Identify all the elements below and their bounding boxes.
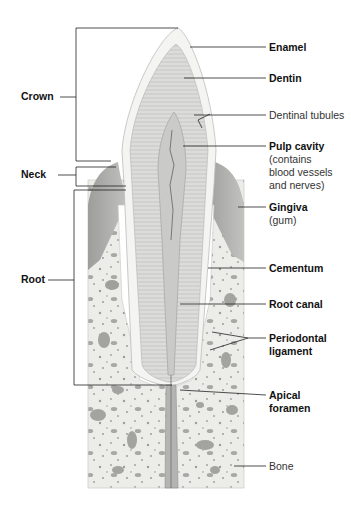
label-bone: Bone <box>269 460 294 473</box>
label-apical-title: Apical <box>269 389 301 401</box>
label-gingiva-sub: (gum) <box>269 214 308 227</box>
label-enamel: Enamel <box>269 41 306 54</box>
label-pulp-cavity-sub1: (contains <box>269 153 333 166</box>
label-periodontal-ligament: Periodontal ligament <box>269 332 327 358</box>
label-apical-foramen: Apical foramen <box>269 389 310 415</box>
label-periodontal-sub: ligament <box>269 345 327 358</box>
label-crown: Crown <box>21 90 54 103</box>
label-periodontal-title: Periodontal <box>269 332 327 344</box>
label-neck: Neck <box>21 168 46 181</box>
label-apical-sub: foramen <box>269 402 310 415</box>
label-root: Root <box>21 273 45 286</box>
tooth-diagram: Crown Neck Root Enamel Dentin Dentinal t… <box>0 0 351 512</box>
label-root-canal: Root canal <box>269 298 323 311</box>
label-pulp-cavity-sub3: and nerves) <box>269 179 333 192</box>
label-pulp-cavity-title: Pulp cavity <box>269 140 324 152</box>
root-canal <box>165 375 178 488</box>
label-pulp-cavity: Pulp cavity (contains blood vessels and … <box>269 140 333 192</box>
label-gingiva-title: Gingiva <box>269 201 308 213</box>
label-dentinal-tubules: Dentinal tubules <box>269 109 344 122</box>
label-pulp-cavity-sub2: blood vessels <box>269 166 333 179</box>
label-gingiva: Gingiva (gum) <box>269 201 308 227</box>
label-dentin: Dentin <box>269 72 302 85</box>
label-cementum: Cementum <box>269 262 323 275</box>
